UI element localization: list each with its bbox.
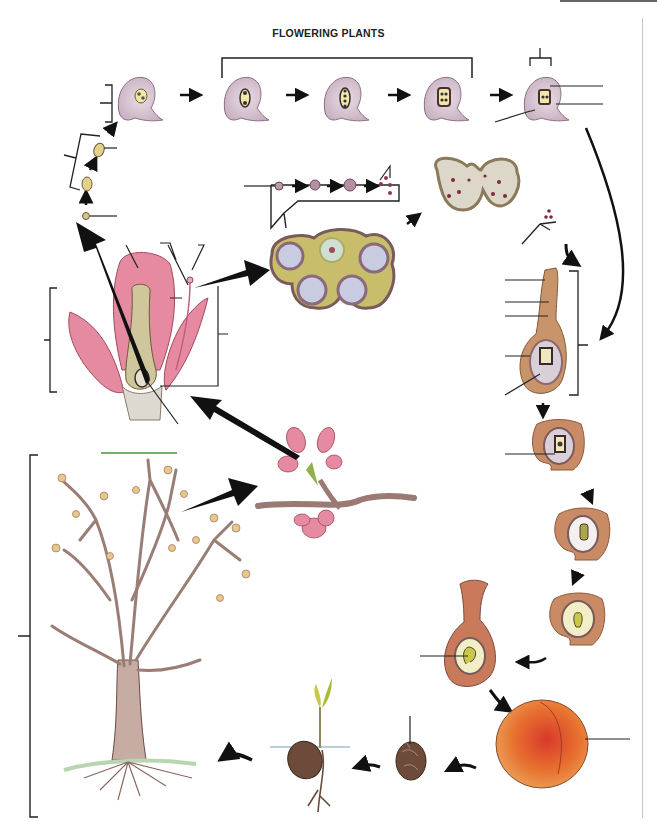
peach-fruit xyxy=(496,700,630,788)
tree-to-branch-arrow xyxy=(181,478,258,512)
seed-pit xyxy=(396,716,426,780)
flower-to-anther-arrow xyxy=(194,260,270,288)
cycle-arrow-to-pistil xyxy=(586,128,623,335)
pistil-fertilization xyxy=(505,268,588,395)
flower-cross-section xyxy=(44,243,228,424)
seedling xyxy=(270,678,350,812)
mature-tree xyxy=(18,453,250,817)
flowering-branch xyxy=(258,425,414,538)
anther-cross-section xyxy=(271,229,394,308)
embryo-early xyxy=(555,508,610,560)
branch-to-flower-arrow xyxy=(190,396,300,460)
ovule-4-nucleate xyxy=(324,77,369,120)
megaspore-development xyxy=(64,127,117,220)
ovule-8-nucleate xyxy=(424,77,469,120)
life-cycle-diagram xyxy=(0,0,657,836)
embryo-mid xyxy=(550,593,605,645)
microspore-development xyxy=(244,166,399,228)
zygote-ovule xyxy=(533,420,585,471)
ovary-with-seed xyxy=(420,580,495,686)
ovule-series xyxy=(100,48,603,122)
dehisced-anther xyxy=(436,158,519,210)
ovule-2-nucleate xyxy=(224,77,269,120)
germinating-pollen xyxy=(522,209,574,262)
ovule-mature-embryo-sac xyxy=(524,77,569,120)
ovule-megaspore-mother-cell xyxy=(118,77,163,120)
